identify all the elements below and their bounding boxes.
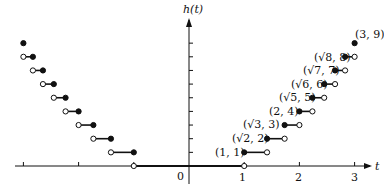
open-endpoint-icon [108,150,113,155]
y-axis-arrow-icon [186,18,192,27]
x-axis-arrow-icon [364,163,372,169]
open-endpoint-icon [76,122,81,127]
open-endpoint-icon [352,54,357,59]
x-tick-label-2: 2 [295,171,302,184]
annotation-sqrt5-5: (√5, 5) [279,91,316,104]
open-endpoint-icon [343,68,348,73]
x-axis-label: t [375,160,380,173]
closed-endpoint-icon [63,95,68,100]
axes [15,18,372,184]
x-tick-label-3: 3 [351,171,358,184]
annotation-sqrt2-2: (√2, 2) [232,132,269,145]
closed-endpoint-icon [91,122,96,127]
open-endpoint-icon [131,163,136,168]
annotation-sqrt3-3: (√3, 3) [243,118,280,131]
open-endpoint-icon [40,82,45,87]
open-endpoint-icon [282,136,287,141]
annotation-sqrt8-8: (√8, 8) [314,51,351,64]
open-endpoint-icon [51,95,56,100]
x-tick-label-1: 1 [239,171,246,184]
open-endpoint-icon [332,82,337,87]
step-function-plot: h(t) t 0 1 2 3 (1, 1) (√2, 2) (√3, 3) (2… [0,0,384,194]
closed-endpoint-icon [76,109,81,114]
annotation-sqrt6-6: (√6, 6) [291,78,328,91]
annotation-3-9: (3, 9) [355,28,384,41]
closed-endpoint-icon [108,136,113,141]
open-endpoint-icon [310,109,315,114]
open-endpoint-icon [264,150,269,155]
closed-endpoint-icon [40,68,45,73]
closed-endpoint-icon [282,122,287,127]
closed-endpoint-icon [352,41,357,46]
closed-endpoint-icon [51,82,56,87]
open-endpoint-icon [30,68,35,73]
closed-endpoint-icon [30,54,35,59]
annotation-sqrt7-7: (√7, 7) [303,64,340,77]
y-axis-label: h(t) [183,3,203,16]
annotation-1-1: (1, 1) [215,146,245,159]
open-endpoint-icon [322,95,327,100]
open-endpoint-icon [297,122,302,127]
open-endpoint-icon [21,54,26,59]
origin-label: 0 [177,170,184,183]
annotation-2-4: (2, 4) [269,105,299,118]
open-endpoint-icon [91,136,96,141]
closed-endpoint-icon [131,150,136,155]
open-endpoint-icon [63,109,68,114]
chart-container: h(t) t 0 1 2 3 (1, 1) (√2, 2) (√3, 3) (2… [0,0,384,194]
open-endpoint-icon [242,163,247,168]
closed-endpoint-icon [21,41,26,46]
